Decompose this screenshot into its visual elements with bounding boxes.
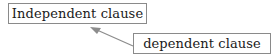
dependent-clause-box: dependent clause: [133, 33, 271, 54]
dependent-clause-label: dependent clause: [143, 36, 261, 51]
